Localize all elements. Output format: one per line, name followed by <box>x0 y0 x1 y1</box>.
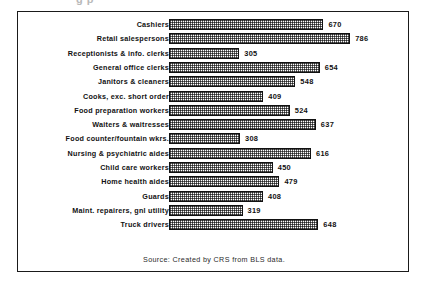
bar <box>169 162 273 173</box>
bar-value-label: 548 <box>300 76 313 87</box>
bar <box>169 105 290 116</box>
bar-category-label: Home health aides <box>0 176 169 187</box>
bar-row: Food counter/fountain wkrs.308 <box>18 133 410 144</box>
bar-category-label: General office clerks <box>0 62 169 73</box>
bar <box>169 33 350 44</box>
chart-frame: Cashiers670Retail salespersons786Recepti… <box>17 11 409 272</box>
bar-value-label: 654 <box>325 62 338 73</box>
source-note: Source: Created by CRS from BLS data. <box>18 255 410 264</box>
bar-value-label: 479 <box>284 176 297 187</box>
bar-category-label: Food preparation workers <box>0 105 169 116</box>
bar-row: Food preparation workers524 <box>18 105 410 116</box>
scan-artifact-text: g p <box>76 0 94 5</box>
bar <box>169 205 243 216</box>
bar-value-label: 670 <box>328 19 341 30</box>
bar-row: Janitors & cleaners548 <box>18 76 410 87</box>
bar <box>169 19 323 30</box>
bar-row: Child care workers450 <box>18 162 410 173</box>
bar <box>169 148 311 159</box>
bar-category-label: Janitors & cleaners <box>0 76 169 87</box>
bar-row: General office clerks654 <box>18 62 410 73</box>
bar <box>169 191 263 202</box>
bar-value-label: 308 <box>245 133 258 144</box>
bar <box>169 219 318 230</box>
bar-category-label: Food counter/fountain wkrs. <box>0 133 169 144</box>
bar-value-label: 616 <box>316 148 329 159</box>
bar-row: Guards408 <box>18 191 410 202</box>
bar-row: Cooks, exc. short order409 <box>18 91 410 102</box>
bar-row: Truck drivers648 <box>18 219 410 230</box>
bar-value-label: 409 <box>268 91 281 102</box>
bar-category-label: Maint. repairers, gnl utility <box>0 205 169 216</box>
bar-row: Waiters & waitresses637 <box>18 119 410 130</box>
bar-row: Retail salespersons786 <box>18 33 410 44</box>
bar-category-label: Nursing & psychiatric aides <box>0 148 169 159</box>
bar-value-label: 648 <box>323 219 336 230</box>
bar-category-label: Cooks, exc. short order <box>0 91 169 102</box>
bar-value-label: 319 <box>248 205 261 216</box>
bar-row: Receptionists & info. clerks305 <box>18 48 410 59</box>
bar <box>169 76 295 87</box>
bar <box>169 133 240 144</box>
bar-category-label: Retail salespersons <box>0 33 169 44</box>
bar-value-label: 408 <box>268 191 281 202</box>
bar-value-label: 524 <box>295 105 308 116</box>
bar <box>169 119 316 130</box>
bar-category-label: Receptionists & info. clerks <box>0 48 169 59</box>
bar <box>169 91 263 102</box>
bar-row: Maint. repairers, gnl utility319 <box>18 205 410 216</box>
bar-value-label: 305 <box>244 48 257 59</box>
bar <box>169 48 239 59</box>
bar-row: Home health aides479 <box>18 176 410 187</box>
scan-artifact-top: g p <box>0 0 424 10</box>
bar-row: Nursing & psychiatric aides616 <box>18 148 410 159</box>
bar-category-label: Child care workers <box>0 162 169 173</box>
bar <box>169 176 279 187</box>
bar-category-label: Waiters & waitresses <box>0 119 169 130</box>
bar-category-label: Cashiers <box>0 19 169 30</box>
bar-value-label: 786 <box>355 33 368 44</box>
bar-value-label: 450 <box>278 162 291 173</box>
bar <box>169 62 320 73</box>
bar-category-label: Guards <box>0 191 169 202</box>
bar-category-label: Truck drivers <box>0 219 169 230</box>
bar-chart-plot-area: Cashiers670Retail salespersons786Recepti… <box>18 19 410 249</box>
bar-row: Cashiers670 <box>18 19 410 30</box>
bar-value-label: 637 <box>321 119 334 130</box>
